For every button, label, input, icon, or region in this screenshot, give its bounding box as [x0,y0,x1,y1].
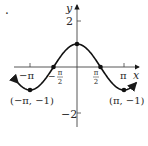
x-tick-label-half-pi-num: π [94,69,99,77]
point-zero [75,42,80,47]
y-tick-label-2: 2 [66,15,73,28]
x-tick-label-neg-half-pi-minus: − [48,71,56,81]
figure-marker: . [5,3,9,17]
y-tick-label-neg2: −2 [61,108,77,121]
point-label-pi: (π, −1) [109,95,145,106]
y-axis-label: y [65,2,73,15]
point-half-pi [98,65,103,70]
point-label-neg-pi: (−π, −1) [10,95,54,106]
x-tick-label-pi: π [120,70,127,81]
x-tick-label-neg-half-pi-den: 2 [58,78,62,86]
point-pi [122,88,127,93]
point-neg-pi [28,88,33,93]
x-tick-label-half-pi-den: 2 [94,78,98,86]
x-tick-label-neg-half-pi-num: π [58,69,63,77]
x-tick-label-neg-pi: −π [19,70,34,81]
cosine-graph: . y x 2 −2 −π π − π 2 π 2 (−π, −1) (π, −… [0,0,148,146]
x-axis-label: x [133,69,140,82]
point-neg-half-pi [51,65,56,70]
